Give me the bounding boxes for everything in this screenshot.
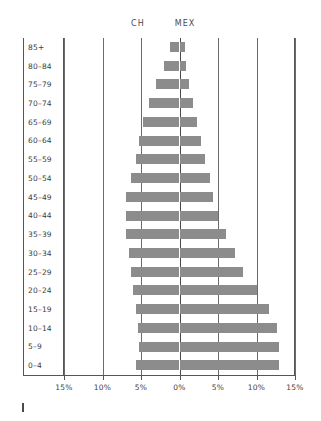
category-label-80–84: 80–84 [28,62,66,71]
x-tick-label: 15% [55,383,72,392]
bar-ch-10–14 [138,323,180,333]
category-label-20–24: 20–24 [28,286,66,295]
bar-ch-65–69 [143,117,179,127]
bar-mex-65–69 [180,117,198,127]
category-label-55–59: 55–59 [28,155,66,164]
pyramid-row [64,263,295,282]
x-tick-mark [103,375,104,380]
pyramid-row [64,225,295,244]
pyramid-row [64,57,295,76]
bar-mex-45–49 [180,192,214,202]
bar-ch-45–49 [126,192,179,202]
category-label-40–44: 40–44 [28,211,66,220]
plot-area [64,38,295,375]
bar-mex-10–14 [180,323,278,333]
gridline-15 [295,38,296,375]
bar-ch-70–74 [149,98,179,108]
bar-mex-60–64 [180,136,202,146]
pyramid-row [64,113,295,132]
x-tick-label: 10% [94,383,111,392]
bar-ch-55–59 [136,154,180,164]
bar-mex-55–59 [180,154,205,164]
bar-ch-80–84 [164,61,179,71]
bar-ch-30–34 [129,248,179,258]
x-tick-mark [141,375,142,380]
category-label-85+: 85+ [28,43,66,52]
corner-mark-icon [22,403,24,412]
pyramid-row [64,281,295,300]
pyramid-row [64,244,295,263]
category-label-70–74: 70–74 [28,99,66,108]
bar-mex-0–4 [180,360,279,370]
category-label-5–9: 5–9 [28,342,66,351]
bar-ch-50–54 [131,173,180,183]
pyramid-row [64,356,295,375]
bar-mex-85+ [180,42,185,52]
legend-label-ch: CH [131,19,145,28]
category-label-15–19: 15–19 [28,305,66,314]
pyramid-row [64,300,295,319]
category-label-10–14: 10–14 [28,324,66,333]
bar-mex-70–74 [180,98,193,108]
category-label-45–49: 45–49 [28,193,66,202]
category-label-65–69: 65–69 [28,118,66,127]
bar-mex-15–19 [180,304,269,314]
x-tick-mark [64,375,65,380]
x-tick-label: 5% [135,383,147,392]
pyramid-row [64,150,295,169]
bar-mex-5–9 [180,342,279,352]
pyramid-row [64,319,295,338]
bar-ch-60–64 [139,136,179,146]
x-tick-mark [257,375,258,380]
legend-label-mex: MEX [175,19,196,28]
category-label-60–64: 60–64 [28,136,66,145]
bar-mex-25–29 [180,267,243,277]
category-label-50–54: 50–54 [28,174,66,183]
pyramid-row [64,38,295,57]
bar-ch-5–9 [139,342,180,352]
bar-ch-75–79 [156,79,179,89]
pyramid-row [64,94,295,113]
x-tick-label: 0% [173,383,185,392]
bar-mex-40–44 [180,211,219,221]
pyramid-row [64,338,295,357]
x-tick-mark [295,375,296,380]
bar-mex-20–24 [180,285,258,295]
category-label-25–29: 25–29 [28,268,66,277]
category-label-0–4: 0–4 [28,361,66,370]
category-label-30–34: 30–34 [28,249,66,258]
pyramid-row [64,188,295,207]
bar-mex-50–54 [180,173,210,183]
bar-mex-80–84 [180,61,187,71]
pyramid-row [64,75,295,94]
chart-legend: CH MEX [0,19,321,33]
x-tick-label: 5% [212,383,224,392]
bar-ch-25–29 [131,267,180,277]
bar-ch-0–4 [136,360,179,370]
bar-mex-35–39 [180,229,226,239]
pyramid-row [64,169,295,188]
bar-ch-85+ [170,42,179,52]
bar-ch-40–44 [126,211,179,221]
category-label-75–79: 75–79 [28,80,66,89]
x-tick-label: 10% [248,383,265,392]
bar-ch-15–19 [136,304,179,314]
bar-mex-30–34 [180,248,235,258]
x-tick-mark [180,375,181,380]
pyramid-row [64,132,295,151]
category-label-35–39: 35–39 [28,230,66,239]
x-tick-label: 15% [286,383,303,392]
bar-mex-75–79 [180,79,189,89]
bar-ch-35–39 [126,229,180,239]
bar-ch-20–24 [133,285,179,295]
population-pyramid-chart: CH MEX 15%10%5%0%5%10%15% 85+80–8475–797… [0,0,321,421]
x-tick-mark [218,375,219,380]
pyramid-row [64,207,295,226]
